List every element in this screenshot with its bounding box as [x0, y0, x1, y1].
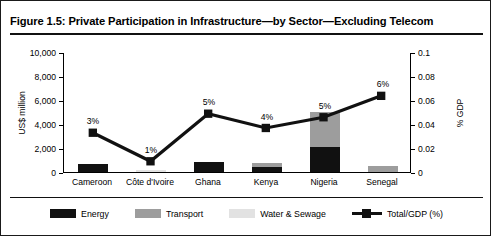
- line-marker: [204, 110, 212, 118]
- legend-swatch-icon: [229, 209, 255, 218]
- y-axis-left-tick: [59, 53, 63, 54]
- y-axis-right-tick: [411, 149, 415, 150]
- x-axis-category-label: Nigeria: [295, 177, 353, 191]
- legend-item[interactable]: Total/GDP (%): [352, 209, 443, 219]
- y-axis-right-tick-label: 0.1: [418, 48, 430, 58]
- y-axis-left-title-text: US$ million: [17, 91, 27, 134]
- y-axis-right-tick-label: 0.08: [418, 72, 435, 82]
- y-axis-right-title: % GDP: [453, 53, 467, 173]
- data-point-label: 3%: [87, 116, 99, 126]
- y-axis-left-tick: [59, 173, 63, 174]
- y-axis-left-title: US$ million: [15, 53, 29, 173]
- y-axis-right-tick-label: 0.04: [418, 120, 435, 130]
- legend-label: Transport: [166, 209, 203, 219]
- legend-label: Total/GDP (%): [387, 209, 443, 219]
- legend-swatch-icon: [50, 209, 76, 218]
- line-path: [93, 96, 381, 161]
- line-marker: [262, 124, 270, 132]
- y-axis-left-tick: [59, 149, 63, 150]
- y-axis-left-tick-label: 0: [51, 168, 56, 178]
- x-axis-category-label: Côte d'Ivoire: [121, 177, 179, 191]
- y-axis-right-tick: [411, 173, 415, 174]
- x-axis-category-label: Senegal: [353, 177, 411, 191]
- y-axis-right-tick: [411, 101, 415, 102]
- data-point-label: 6%: [377, 79, 389, 89]
- legend-item[interactable]: Water & Sewage: [229, 209, 326, 219]
- x-axis-category-labels: CameroonCôte d'IvoireGhanaKenyaNigeriaSe…: [63, 177, 411, 191]
- line-marker: [377, 92, 385, 100]
- figure-container: Figure 1.5: Private Participation in Inf…: [0, 0, 491, 236]
- data-point-label: 5%: [203, 97, 215, 107]
- legend-item[interactable]: Transport: [135, 209, 203, 219]
- legend-label: Energy: [81, 209, 109, 219]
- page-title: Figure 1.5: Private Participation in Inf…: [10, 15, 433, 27]
- legend-swatch-icon: [135, 209, 161, 218]
- legend-line-marker-icon: [352, 209, 382, 219]
- y-axis-right-tick-label: 0.06: [418, 96, 435, 106]
- legend-label: Water & Sewage: [260, 209, 326, 219]
- y-axis-left-tick-label: 6,000: [34, 96, 56, 106]
- y-axis-right-tick-label: 0.02: [418, 144, 435, 154]
- y-axis-left-tick-label: 4,000: [34, 120, 56, 130]
- data-point-label: 4%: [261, 112, 273, 122]
- y-axis-left-tick: [59, 101, 63, 102]
- y-axis-right-tick: [411, 125, 415, 126]
- x-axis-category-label: Cameroon: [63, 177, 121, 191]
- figure-title-bar: Figure 1.5: Private Participation in Inf…: [10, 9, 483, 35]
- y-axis-left-tick-label: 10,000: [30, 48, 56, 58]
- total-gdp-line: [64, 53, 410, 172]
- y-axis-left-tick: [59, 77, 63, 78]
- plot-area: 10,0008,0006,0004,0002,0000 0.10.080.060…: [63, 53, 411, 173]
- y-axis-left-tick-label: 8,000: [34, 72, 56, 82]
- x-axis-category-label: Ghana: [179, 177, 237, 191]
- data-point-label: 5%: [319, 101, 331, 111]
- legend-item[interactable]: Energy: [50, 209, 109, 219]
- y-axis-right-tick: [411, 53, 415, 54]
- y-axis-left-tick-label: 2,000: [34, 144, 56, 154]
- line-marker: [146, 157, 154, 165]
- y-axis-left-tick: [59, 125, 63, 126]
- line-marker: [319, 113, 327, 121]
- y-axis-right-tick: [411, 77, 415, 78]
- line-marker: [89, 129, 97, 137]
- x-axis-category-label: Kenya: [237, 177, 295, 191]
- y-axis-right-tick-label: 0: [418, 168, 423, 178]
- y-axis-right-title-text: % GDP: [455, 99, 465, 128]
- data-point-label: 1%: [145, 145, 157, 155]
- chart-legend: EnergyTransportWater & SewageTotal/GDP (…: [10, 197, 483, 227]
